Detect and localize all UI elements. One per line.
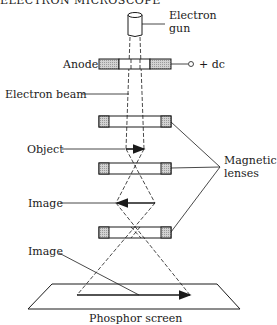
- object-label: Object: [27, 143, 64, 156]
- magnetic-lens-1: [99, 116, 171, 127]
- electron-microscope-diagram: ELECTRON MICROSCOPE Electron gun Anode +…: [0, 0, 277, 325]
- phosphor-screen: [28, 284, 240, 309]
- phosphor-screen-label: Phosphor screen: [89, 312, 182, 325]
- anode-label: Anode: [62, 58, 98, 71]
- magnetic-lenses-label: Magnetic: [224, 154, 277, 167]
- electron-gun: [128, 13, 165, 37]
- terminal-icon: [189, 62, 194, 67]
- ray-path-1: [116, 149, 155, 203]
- diagram-heading: ELECTRON MICROSCOPE: [0, 0, 161, 7]
- dc-supply-label: + dc: [199, 58, 225, 71]
- magnetic-lenses-pointer: [171, 122, 220, 232]
- electron-gun-label-2: gun: [169, 22, 190, 35]
- electron-beam-label: Electron beam: [5, 88, 87, 101]
- ray-path-2: [77, 203, 190, 295]
- magnetic-lenses-label-2: lenses: [224, 167, 259, 180]
- electron-gun-label: Electron: [169, 9, 217, 22]
- magnetic-lens-2: [99, 163, 171, 174]
- electron-beam: [126, 37, 144, 149]
- anode-plate: [99, 59, 194, 69]
- final-image-label: Image: [28, 245, 63, 258]
- intermediate-image-label: Image: [28, 197, 63, 210]
